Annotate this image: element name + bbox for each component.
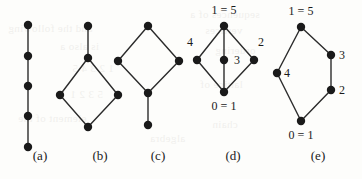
hasse-node-label-e_right2: 2 xyxy=(339,83,345,97)
figure-caption-c: (c) xyxy=(151,148,165,163)
hasse-edge-b-1 xyxy=(60,58,88,95)
figure-root: sequences of a and the following vertice… xyxy=(0,0,362,179)
hasse-node-c_lower xyxy=(144,89,152,97)
diagram-canvas: 1 = 54320 = 11 = 53420 = 1 (a)(b)(c)(d)(… xyxy=(0,0,362,179)
hasse-edge-b-2 xyxy=(88,58,118,95)
hasse-node-label-d_left: 4 xyxy=(187,35,193,49)
hasse-node-c_top xyxy=(144,22,152,30)
hasse-node-label-e_right1: 3 xyxy=(339,48,345,62)
hasse-node-label-d_top: 1 = 5 xyxy=(212,3,237,17)
hasse-node-c_right xyxy=(175,57,183,65)
hasse-node-c_left xyxy=(114,57,122,65)
hasse-node-d_bottom xyxy=(220,88,228,96)
hasse-node-label-e_top: 1 = 5 xyxy=(289,4,314,18)
hasse-node-e_bottom xyxy=(297,117,305,125)
figure-caption-a: (a) xyxy=(33,148,47,163)
captions-group: (a)(b)(c)(d)(e) xyxy=(33,148,325,163)
hasse-edge-d-3 xyxy=(197,60,224,92)
hasse-node-d_right xyxy=(250,56,258,64)
hasse-edge-e-1 xyxy=(301,27,331,55)
hasse-node-e_top xyxy=(297,23,305,31)
hasse-node-e_right1 xyxy=(327,51,335,59)
hasse-edge-b-3 xyxy=(60,95,88,127)
labels-group: 1 = 54320 = 11 = 53420 = 1 xyxy=(187,3,345,142)
hasse-node-c_bottom xyxy=(144,121,152,129)
hasse-node-b_left xyxy=(56,91,64,99)
hasse-node-a4 xyxy=(24,143,32,151)
hasse-node-b_upper xyxy=(84,54,92,62)
hasse-edge-d-0 xyxy=(197,26,224,60)
hasse-node-label-d_bottom: 0 = 1 xyxy=(212,99,237,113)
hasse-edge-e-3 xyxy=(301,90,331,121)
hasse-node-d_top xyxy=(220,22,228,30)
hasse-node-label-e_left: 4 xyxy=(284,66,290,80)
hasse-node-a3 xyxy=(24,112,32,120)
edges-group xyxy=(28,25,331,147)
hasse-node-e_left xyxy=(273,69,281,77)
hasse-node-label-d_right: 2 xyxy=(258,35,264,49)
hasse-node-d_center xyxy=(220,56,228,64)
hasse-node-d_left xyxy=(193,56,201,64)
hasse-node-a1 xyxy=(24,52,32,60)
hasse-edge-c-1 xyxy=(148,26,179,61)
hasse-edge-c-0 xyxy=(118,26,148,61)
figure-caption-d: (d) xyxy=(225,148,240,163)
figure-caption-e: (e) xyxy=(311,148,325,163)
figure-caption-b: (b) xyxy=(92,148,107,163)
hasse-edge-e-4 xyxy=(277,73,301,121)
hasse-node-label-d_center: 3 xyxy=(234,53,240,67)
hasse-node-a2 xyxy=(24,82,32,90)
hasse-edge-c-2 xyxy=(118,61,148,93)
hasse-node-b_top xyxy=(84,22,92,30)
hasse-edge-c-3 xyxy=(148,61,179,93)
hasse-node-e_right2 xyxy=(327,86,335,94)
hasse-edge-b-4 xyxy=(88,95,118,127)
hasse-node-a0 xyxy=(24,21,32,29)
hasse-node-b_right xyxy=(114,91,122,99)
hasse-node-label-e_bottom: 0 = 1 xyxy=(289,128,314,142)
hasse-node-b_bottom xyxy=(84,123,92,131)
